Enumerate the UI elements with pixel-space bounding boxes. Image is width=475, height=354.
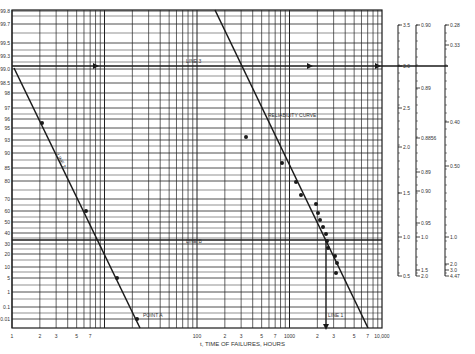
side-scale-label: 2.5 [403, 105, 410, 111]
x-tick-label: 1 [11, 333, 14, 339]
y-tick-label: 20 [4, 251, 10, 257]
x-tick-label: 2 [38, 333, 41, 339]
data-point [314, 202, 318, 206]
side-scale-label: 4.47 [450, 273, 460, 279]
x-tick-label: 7 [274, 333, 277, 339]
y-tick-label: 70 [4, 196, 10, 202]
data-point [115, 276, 119, 280]
data-point [135, 317, 139, 321]
side-scale-label: 0.90 [421, 22, 431, 28]
x-tick-label: 1000 [284, 333, 295, 339]
y-tick-label: 40 [4, 230, 10, 236]
y-tick-label: 99.0 [0, 66, 10, 72]
side-scale-label: 0.95 [421, 220, 431, 226]
y-tick-label: 80 [4, 178, 10, 184]
x-tick-label: 10,000 [374, 333, 390, 339]
side-scale-label: 0.28 [450, 22, 460, 28]
x-tick-label: 3 [240, 333, 243, 339]
y-tick-label: 93 [4, 137, 10, 143]
data-point [324, 232, 328, 236]
side-scales: 3.53.02.52.01.51.00.50.900.890.88560.890… [398, 22, 460, 279]
data-points [40, 121, 339, 321]
y-tick-label: 0.01 [0, 316, 10, 322]
data-point [318, 218, 322, 222]
side-scale-label: 0.50 [450, 163, 460, 169]
y-tick-label: 99.8 [0, 8, 10, 14]
data-point [244, 135, 248, 139]
y-tick-label: 85 [4, 165, 10, 171]
data-point [334, 271, 338, 275]
data-point [326, 246, 330, 250]
y-tick-label: 50 [4, 219, 10, 225]
y-tick-label: 60 [4, 208, 10, 214]
side-scale-label: 0.89 [421, 169, 431, 175]
annotation-label: LINE 3 [186, 58, 202, 64]
side-scale-label: 2.0 [403, 144, 410, 150]
weibull-chart: 99.899.799.599.399.098.59897969593908580… [0, 0, 475, 354]
side-scale-label: 0.5 [403, 273, 410, 279]
y-tick-label: 99.7 [0, 21, 10, 27]
annotation-label: LINE 1 [328, 312, 344, 318]
data-point [321, 225, 325, 229]
data-point [299, 193, 303, 197]
data-point [40, 121, 44, 125]
side-scale-label: 0.33 [450, 42, 460, 48]
y-tick-label: 99.3 [0, 53, 10, 59]
side-scale-label: 1.5 [403, 190, 410, 196]
annotation-label: LINE 2 [55, 153, 68, 170]
x-tick-label: 7 [366, 333, 369, 339]
side-scale-label: 0.8856 [421, 135, 437, 141]
side-scale-label: 0.40 [450, 119, 460, 125]
y-tick-label: 95 [4, 125, 10, 131]
x-tick-label: 5 [260, 333, 263, 339]
side-scale-label: 1.0 [450, 234, 457, 240]
data-point [325, 239, 329, 243]
arrow-down-icon [323, 324, 329, 330]
side-scale-label: 3.5 [403, 22, 410, 28]
annotation-label: RELIABILITY CURVE [268, 112, 317, 118]
y-axis-tick-labels: 99.899.799.599.399.098.59897969593908580… [0, 8, 10, 322]
x-tick-label: 5 [353, 333, 356, 339]
y-tick-label: 97 [4, 105, 10, 111]
data-point [335, 261, 339, 265]
data-point [84, 209, 88, 213]
y-tick-label: 10 [4, 264, 10, 270]
data-point [294, 180, 298, 184]
x-axis-tick-labels: 1235710023571000235710,000 [11, 333, 390, 339]
side-scale-label: 1.0 [403, 234, 410, 240]
data-point [316, 211, 320, 215]
data-point [333, 254, 337, 258]
x-tick-label: 100 [193, 333, 202, 339]
side-scale-label: 3.0 [403, 63, 410, 69]
x-tick-label: 3 [332, 333, 335, 339]
annotation-label: LINE B [186, 238, 203, 244]
data-point [280, 161, 284, 165]
side-scale-label: 0.89 [421, 85, 431, 91]
y-tick-label: 1 [7, 289, 10, 295]
side-scale-label: 2.0 [421, 273, 428, 279]
y-tick-label: 98 [4, 90, 10, 96]
y-tick-label: 30 [4, 241, 10, 247]
y-tick-label: 90 [4, 150, 10, 156]
x-tick-label: 3 [55, 333, 58, 339]
x-axis-label: t, TIME OF FAILURES, HOURS [200, 341, 285, 347]
y-tick-label: 98.5 [0, 80, 10, 86]
x-tick-label: 7 [89, 333, 92, 339]
x-tick-label: 2 [316, 333, 319, 339]
y-tick-label: 96 [4, 116, 10, 122]
annotation-label: POINT A [143, 312, 163, 318]
y-tick-label: 0.1 [3, 304, 10, 310]
y-tick-label: 99.5 [0, 40, 10, 46]
arrow-right-icon [93, 63, 99, 69]
side-scale-label: 0.90 [421, 188, 431, 194]
x-tick-label: 2 [223, 333, 226, 339]
side-scale-label: 1.0 [421, 234, 428, 240]
x-tick-label: 5 [75, 333, 78, 339]
arrow-right-icon [307, 63, 313, 69]
y-tick-label: 5 [7, 275, 10, 281]
